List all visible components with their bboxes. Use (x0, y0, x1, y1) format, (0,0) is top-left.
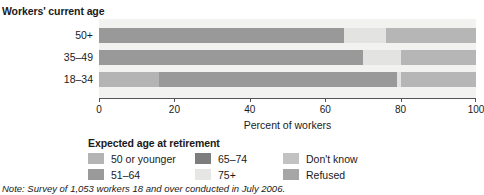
legend-swatch (88, 169, 104, 180)
legend-swatch (195, 153, 211, 164)
y-tick-label-18-34: 18–34 (64, 73, 93, 85)
x-tick-mark (174, 98, 175, 102)
legend-swatch (195, 169, 211, 180)
legend: Expected age at retirement 50 or younger… (88, 137, 408, 182)
legend-item[interactable]: Refused (283, 168, 345, 181)
bar-segment (401, 72, 476, 87)
legend-label: 75+ (218, 169, 236, 181)
x-tick-label: 60 (320, 104, 331, 115)
legend-label: 51–64 (111, 169, 140, 181)
bar-segment (99, 28, 344, 43)
bar-segment (386, 28, 476, 43)
bar-segment (99, 50, 363, 65)
legend-title: Expected age at retirement (88, 137, 408, 149)
legend-label: Don't know (306, 153, 358, 165)
legend-label: 50 or younger (111, 153, 176, 165)
x-tick-label: 100 (468, 104, 484, 115)
bar-segment (363, 50, 401, 65)
chart-note: Note: Survey of 1,053 workers 18 and ove… (2, 183, 285, 194)
note-text: Survey of 1,053 workers 18 and over cond… (25, 183, 285, 194)
legend-swatch (283, 153, 299, 164)
legend-item[interactable]: 50 or younger (88, 152, 176, 165)
x-tick-mark (325, 98, 326, 102)
legend-item[interactable]: 75+ (195, 168, 236, 181)
bar-row-18-34 (99, 72, 476, 87)
x-tick-label: 40 (244, 104, 255, 115)
note-prefix: Note: (2, 183, 25, 194)
legend-label: 65–74 (218, 153, 247, 165)
legend-item[interactable]: Don't know (283, 152, 358, 165)
y-tick-label-50plus: 50+ (75, 29, 93, 41)
x-axis-line (99, 98, 476, 99)
legend-items: 50 or younger51–6465–7475+Don't knowRefu… (88, 152, 408, 182)
bar-row-35-49 (99, 50, 476, 65)
plot-area (99, 19, 476, 98)
y-tick-label-35-49: 35–49 (64, 51, 93, 63)
x-tick-mark (250, 98, 251, 102)
x-tick-mark (475, 98, 476, 102)
y-axis-title: Workers' current age (2, 5, 104, 17)
bar-segment (99, 72, 159, 87)
legend-item[interactable]: 51–64 (88, 168, 140, 181)
x-tick-mark (401, 98, 402, 102)
bar-row-50plus (99, 28, 476, 43)
legend-swatch (283, 169, 299, 180)
x-axis-title: Percent of workers (99, 119, 476, 131)
x-tick-label: 0 (96, 104, 102, 115)
bar-segment (344, 28, 385, 43)
bar-segment (159, 72, 397, 87)
legend-label: Refused (306, 169, 345, 181)
bar-segment (401, 50, 476, 65)
x-tick-label: 20 (169, 104, 180, 115)
legend-swatch (88, 153, 104, 164)
x-tick-label: 80 (395, 104, 406, 115)
x-tick-mark (99, 98, 100, 102)
legend-item[interactable]: 65–74 (195, 152, 247, 165)
